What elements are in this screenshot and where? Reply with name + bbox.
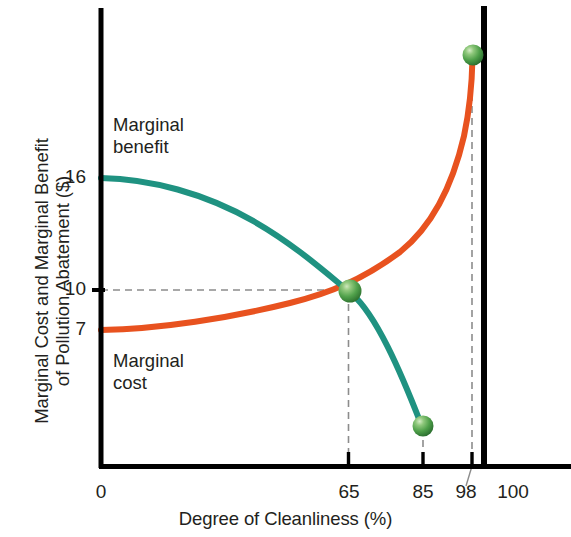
marginal-cost-curve <box>101 58 473 330</box>
x-tick-label-100: 100 <box>486 481 540 503</box>
mc-endpoint-marker <box>463 45 484 66</box>
axes <box>99 6 571 468</box>
x-axis-title: Degree of Cleanliness (%) <box>0 508 571 530</box>
chart-canvas <box>0 0 571 537</box>
marginal-cost-annotation: Marginal cost <box>113 350 184 394</box>
mb-endpoint-marker <box>413 416 434 437</box>
marginal-cost-annotation-line-2: cost <box>113 372 184 394</box>
marginal-benefit-annotation-line-2: benefit <box>113 136 184 158</box>
chart-figure: Marginal Cost and Marginal Benefit of Po… <box>0 0 571 537</box>
x-tick-label-0: 0 <box>76 481 126 503</box>
efficient-level-marker <box>339 280 362 303</box>
data-point-markers <box>339 45 484 437</box>
y-tick-label-16: 16 <box>28 166 86 188</box>
marginal-benefit-annotation: Marginal benefit <box>113 114 184 158</box>
x-tick-label-65: 65 <box>324 481 374 503</box>
marginal-benefit-annotation-line-1: Marginal <box>113 114 184 136</box>
y-tick-label-10: 10 <box>28 278 86 300</box>
y-tick-label-7: 7 <box>28 318 86 340</box>
marginal-cost-annotation-line-1: Marginal <box>113 350 184 372</box>
x-tick-label-98: 98 <box>441 481 491 503</box>
